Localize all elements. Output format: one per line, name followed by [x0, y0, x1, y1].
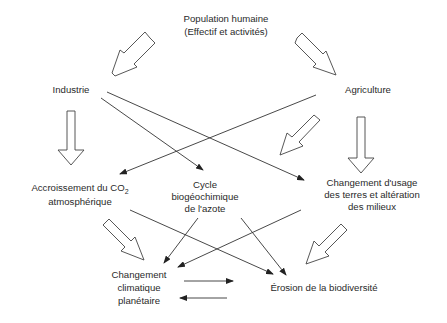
node-climat: Changement climatique planétaire	[112, 269, 167, 306]
node-climat-line2: climatique	[117, 282, 160, 293]
line-arrow-industrie-terres	[107, 92, 304, 180]
co2-subscript: 2	[125, 188, 129, 195]
node-azote-line2: biogéochimique	[171, 191, 238, 202]
node-azote: Cycle biogéochimique de l'azote	[171, 179, 238, 214]
line-arrow-azote-climat	[164, 218, 198, 263]
hollow-arrow-population-industrie	[112, 32, 155, 76]
node-terres-line2: des terres et altération	[324, 189, 419, 200]
hollow-arrow-industrie-co2	[58, 111, 84, 165]
node-industrie: Industrie	[53, 84, 90, 95]
node-population-line2: (Effectif et activités)	[184, 26, 268, 37]
line-arrow-terres-climat	[178, 210, 301, 267]
line-arrow-azote-biodiversite	[241, 218, 286, 275]
node-co2-line1: Accroissement du CO2	[31, 182, 128, 195]
hollow-arrow-co2-climat	[103, 219, 144, 260]
hollow-arrow-population-agriculture	[295, 33, 336, 75]
node-climat-line3: planétaire	[118, 295, 160, 306]
node-co2: Accroissement du CO2 atmosphérique	[31, 182, 128, 207]
hollow-arrow-agriculture-terres	[348, 117, 374, 173]
node-azote-line1: Cycle	[193, 179, 217, 190]
co2-text: Accroissement du CO	[31, 182, 124, 193]
node-population: Population humaine (Effectif et activité…	[184, 13, 269, 37]
node-biodiversite: Érosion de la biodiversité	[270, 282, 377, 293]
node-agriculture: Agriculture	[345, 84, 391, 95]
hollow-arrow-agriculture-azote	[280, 115, 320, 155]
hollow-arrow-terres-biodiversite	[306, 224, 347, 264]
node-terres: Changement d'usage des terres et altérat…	[324, 177, 419, 212]
diagram-canvas: Population humaine (Effectif et activité…	[0, 0, 447, 323]
line-arrow-co2-biodiversite	[130, 210, 273, 274]
node-co2-line2: atmosphérique	[48, 196, 111, 207]
node-terres-line1: Changement d'usage	[327, 177, 418, 188]
node-climat-line1: Changement	[112, 269, 167, 280]
node-azote-line3: de l'azote	[185, 203, 226, 214]
node-terres-line3: des milieux	[348, 201, 396, 212]
node-population-line1: Population humaine	[184, 13, 269, 24]
line-arrow-industrie-azote	[101, 98, 203, 170]
